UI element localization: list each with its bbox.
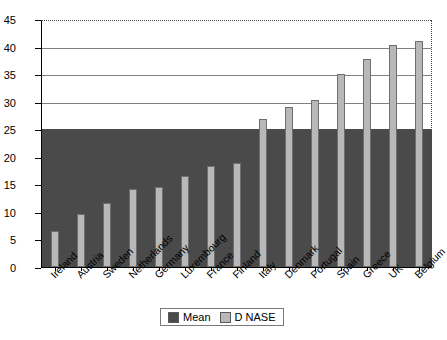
y-axis: 051015202530354045	[0, 0, 41, 268]
plot-right-border	[431, 20, 432, 268]
bar-group[interactable]	[94, 20, 120, 267]
bar-group[interactable]	[198, 20, 224, 267]
bar-d-nase[interactable]	[233, 163, 242, 267]
y-tick-label: 40	[4, 42, 16, 54]
y-tick-mark	[35, 268, 41, 269]
bar-group[interactable]	[42, 20, 68, 267]
y-tick-label: 30	[4, 97, 16, 109]
bar-group[interactable]	[120, 20, 146, 267]
y-tick-label: 25	[4, 124, 16, 136]
bars-layer	[42, 20, 431, 267]
y-tick-label: 35	[4, 69, 16, 81]
mean-swatch-icon	[168, 312, 179, 323]
bar-d-nase[interactable]	[337, 74, 346, 267]
bar-d-nase[interactable]	[285, 107, 294, 267]
bar-group[interactable]	[354, 20, 380, 267]
y-tick-label: 5	[10, 234, 16, 246]
legend-label-mean: Mean	[183, 311, 211, 323]
bar-d-nase[interactable]	[259, 119, 268, 267]
plot-area	[41, 20, 431, 268]
bar-d-nase[interactable]	[415, 41, 424, 268]
y-tick-label: 0	[10, 262, 16, 274]
bar-group[interactable]	[224, 20, 250, 267]
legend-label-d-nase: D NASE	[235, 311, 276, 323]
bar-group[interactable]	[250, 20, 276, 267]
bar-group[interactable]	[302, 20, 328, 267]
bar-group[interactable]	[172, 20, 198, 267]
bar-d-nase[interactable]	[389, 45, 398, 267]
y-tick-label: 20	[4, 152, 16, 164]
nase-swatch-icon	[220, 312, 231, 323]
legend-item-d-nase[interactable]: D NASE	[220, 311, 276, 323]
bar-group[interactable]	[380, 20, 406, 267]
bar-group[interactable]	[68, 20, 94, 267]
bar-d-nase[interactable]	[363, 59, 372, 267]
plot-top-border	[41, 20, 431, 21]
y-tick-label: 10	[4, 207, 16, 219]
legend: Mean D NASE	[160, 308, 284, 326]
legend-item-mean[interactable]: Mean	[168, 311, 211, 323]
bar-group[interactable]	[406, 20, 432, 267]
bar-group[interactable]	[328, 20, 354, 267]
bar-group[interactable]	[276, 20, 302, 267]
y-tick-label: 45	[4, 14, 16, 26]
bar-group[interactable]	[146, 20, 172, 267]
y-tick-label: 15	[4, 179, 16, 191]
